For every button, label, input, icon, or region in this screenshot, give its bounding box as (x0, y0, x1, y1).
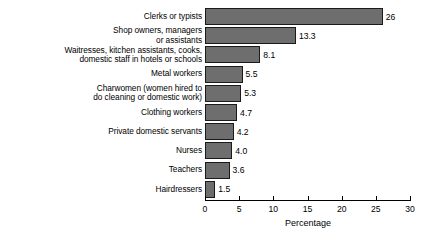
bar (205, 142, 232, 159)
bar-row: 5.3 (205, 85, 410, 102)
bar-value-label: 4.0 (232, 146, 247, 156)
bar-value-label: 5.3 (241, 88, 256, 98)
bar (205, 46, 260, 63)
category-label: Clerks or typists (0, 12, 202, 21)
bar (205, 27, 296, 44)
bar-value-label: 8.1 (260, 50, 275, 60)
bar-row: 4.0 (205, 142, 410, 159)
x-axis-tick-label: 30 (405, 204, 415, 214)
bar-value-label: 26 (383, 12, 396, 22)
x-axis-tick-label: 0 (203, 204, 208, 214)
x-axis-tick-label: 15 (303, 204, 313, 214)
x-axis-tick (342, 196, 343, 200)
category-labels: Clerks or typistsShop owners, managers o… (0, 8, 202, 200)
x-axis-tick (273, 196, 274, 200)
plot-area: 2613.38.15.55.34.74.24.03.61.5 (205, 8, 410, 200)
category-label: Shop owners, managers or assistants (0, 26, 202, 45)
bar-chart: Clerks or typistsShop owners, managers o… (0, 0, 431, 250)
x-axis-tick-label: 10 (269, 204, 279, 214)
bar-value-label: 4.2 (234, 127, 249, 137)
category-label: Hairdressers (0, 185, 202, 194)
bar-row: 5.5 (205, 66, 410, 83)
bar-row: 13.3 (205, 27, 410, 44)
category-label: Private domestic servants (0, 127, 202, 136)
category-label: Teachers (0, 165, 202, 174)
bar-row: 3.6 (205, 162, 410, 179)
category-label: Charwomen (women hired to do cleaning or… (0, 84, 202, 103)
bar-value-label: 3.6 (230, 165, 245, 175)
bar (205, 104, 237, 121)
bar (205, 85, 241, 102)
bar-row: 8.1 (205, 46, 410, 63)
bar (205, 66, 243, 83)
category-label: Metal workers (0, 69, 202, 78)
x-axis-tick-label: 25 (371, 204, 381, 214)
category-label: Nurses (0, 146, 202, 155)
category-label: Clothing workers (0, 108, 202, 117)
bar (205, 123, 234, 140)
bar (205, 162, 230, 179)
bar (205, 181, 215, 198)
x-axis-line: 051015202530 (205, 200, 411, 201)
bar-row: 4.7 (205, 104, 410, 121)
bar-row: 4.2 (205, 123, 410, 140)
bar-row: 26 (205, 8, 410, 25)
bar-value-label: 5.5 (243, 69, 258, 79)
x-axis-tick (376, 196, 377, 200)
x-axis-tick-label: 5 (237, 204, 242, 214)
x-axis-tick (308, 196, 309, 200)
bar-value-label: 4.7 (237, 108, 252, 118)
bar-value-label: 1.5 (215, 184, 230, 194)
category-label: Waitresses, kitchen assistants, cooks, d… (0, 46, 202, 65)
x-axis-tick-label: 20 (337, 204, 347, 214)
x-axis-title: Percentage (205, 218, 411, 228)
x-axis-tick (410, 196, 411, 200)
bar-value-label: 13.3 (296, 31, 316, 41)
bar (205, 8, 383, 25)
x-axis-tick (205, 196, 206, 200)
x-axis-tick (239, 196, 240, 200)
